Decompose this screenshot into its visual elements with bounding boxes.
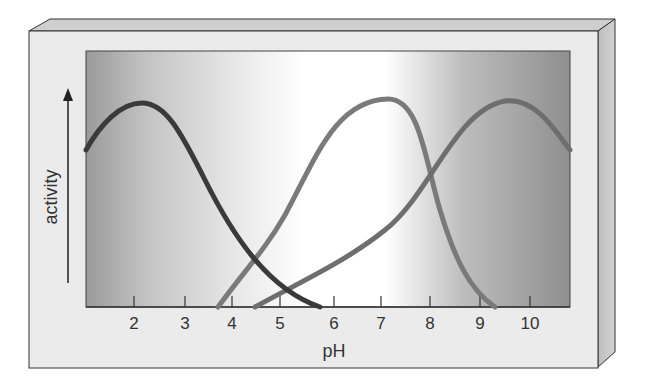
ph-activity-chart: 2 3 4 5 6 7 8 9 10 pH activity [0, 0, 646, 386]
tick-label: 9 [475, 314, 484, 333]
tick-label: 7 [376, 314, 385, 333]
y-axis-title: activity [41, 169, 61, 224]
tick-label: 3 [180, 314, 189, 333]
tick-label: 8 [425, 314, 434, 333]
tick-label: 10 [521, 314, 540, 333]
box-top-face [29, 19, 615, 31]
tick-label: 4 [227, 314, 236, 333]
tick-label: 2 [129, 314, 138, 333]
x-axis-title: pH [322, 341, 345, 361]
box-side-face [598, 19, 615, 367]
tick-label: 6 [329, 314, 338, 333]
tick-label: 5 [275, 314, 284, 333]
